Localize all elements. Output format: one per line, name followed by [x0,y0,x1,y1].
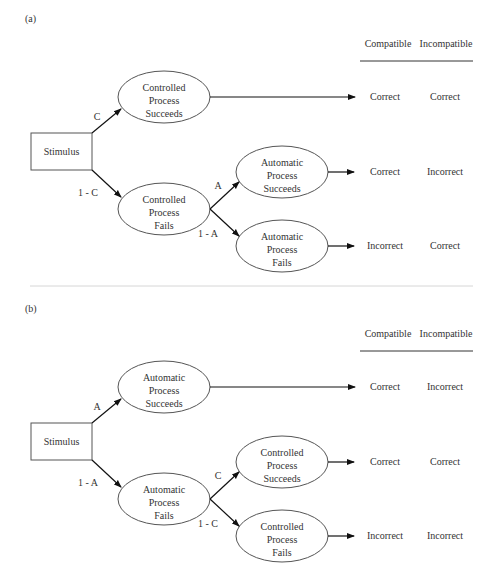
outcome-compatible: Incorrect [367,240,403,251]
outcome-incompatible: Incorrect [427,381,463,392]
second-stage-failure-node-text-line: Fails [272,257,292,268]
outcome-compatible: Correct [370,91,400,102]
first-stage-failure-node-text-line: Automatic [143,484,186,495]
outcome-compatible: Correct [370,381,400,392]
second-stage-failure-node-text-line: Controlled [261,521,304,532]
second-stage-success-node: ControlledProcessSucceeds [236,436,328,488]
column-header-compatible: Compatible [365,38,412,49]
edge-label-first-success: C [94,111,101,122]
edge-label-second-success: A [214,180,222,191]
stimulus-label: Stimulus [44,436,80,447]
second-stage-failure-node: ControlledProcessFails [236,510,328,562]
panel-b: (b)CompatibleIncompatibleStimulusAutomat… [25,303,473,562]
second-stage-success-node-text-line: Controlled [261,447,304,458]
second-stage-success-node-text-line: Succeeds [263,183,300,194]
outcome-incompatible: Correct [430,91,460,102]
second-stage-success-node-text-line: Succeeds [263,473,300,484]
panel-a: (a)CompatibleIncompatibleStimulusControl… [25,13,473,272]
first-stage-success-node-text-line: Succeeds [145,108,182,119]
second-stage-failure-node-text-line: Process [267,244,298,255]
outcome-incompatible: Incorrect [427,530,463,541]
outcome-compatible: Incorrect [367,530,403,541]
second-stage-failure-node-text-line: Automatic [261,231,304,242]
second-stage-failure-node: AutomaticProcessFails [236,220,328,272]
column-header-incompatible: Incompatible [420,38,473,49]
first-stage-success-node: ControlledProcessSucceeds [118,71,210,123]
outcome-incompatible: Correct [430,456,460,467]
first-stage-failure-node-text-line: Process [149,207,180,218]
second-stage-failure-node-text-line: Fails [272,547,292,558]
first-stage-success-node-text-line: Controlled [143,82,186,93]
outcome-compatible: Correct [370,166,400,177]
second-stage-success-node-text-line: Automatic [261,157,304,168]
outcome-incompatible: Correct [430,240,460,251]
outcome-incompatible: Incorrect [427,166,463,177]
second-stage-success-node-text-line: Process [267,170,298,181]
first-stage-failure-node-text-line: Fails [154,510,174,521]
panel-label: (b) [25,303,37,315]
first-stage-success-node-text-line: Succeeds [145,398,182,409]
outcome-compatible: Correct [370,456,400,467]
edge-label-second-failure: 1 - C [198,518,218,529]
column-header-incompatible: Incompatible [420,328,473,339]
first-stage-failure-node: AutomaticProcessFails [118,473,210,525]
process-dissociation-diagram: (a)CompatibleIncompatibleStimulusControl… [0,0,493,584]
stimulus-label: Stimulus [44,146,80,157]
edge-label-first-success: A [93,401,101,412]
edge-label-second-failure: 1 - A [198,228,219,239]
second-stage-success-node: AutomaticProcessSucceeds [236,146,328,198]
first-stage-failure-node-text-line: Controlled [143,194,186,205]
edge-label-second-success: C [215,470,222,481]
second-stage-success-node-text-line: Process [267,460,298,471]
first-stage-failure-node-text-line: Fails [154,220,174,231]
first-stage-success-node-text-line: Automatic [143,372,186,383]
first-stage-success-node: AutomaticProcessSucceeds [118,361,210,413]
first-stage-failure-node: ControlledProcessFails [118,183,210,235]
panel-label: (a) [25,13,36,25]
second-stage-failure-node-text-line: Process [267,534,298,545]
edge-label-first-failure: 1 - C [78,187,98,198]
first-stage-success-node-text-line: Process [149,95,180,106]
first-stage-failure-node-text-line: Process [149,497,180,508]
edge-label-first-failure: 1 - A [78,477,99,488]
column-header-compatible: Compatible [365,328,412,339]
stimulus-box: Stimulus [31,423,92,460]
stimulus-box: Stimulus [31,133,92,170]
first-stage-success-node-text-line: Process [149,385,180,396]
